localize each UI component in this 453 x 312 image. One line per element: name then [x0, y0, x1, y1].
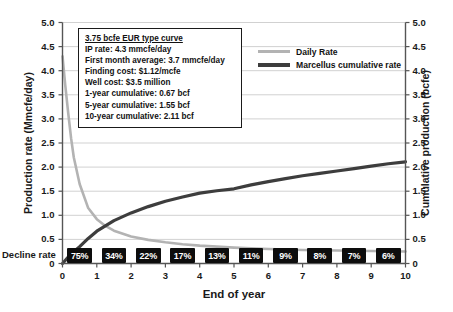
y-tick-right: 3.5: [413, 89, 439, 100]
info-box-line: 1-year cumulative: 0.67 bcf: [85, 88, 236, 99]
y-tick-right: 4.5: [413, 41, 439, 52]
x-tick: 2: [121, 270, 141, 281]
y-tick-left: 3.0: [29, 113, 55, 124]
decline-rate-box: 7%: [342, 248, 367, 263]
y-tick-left: 1.0: [29, 209, 55, 220]
info-box-line: Finding cost: $1.12/mcfe: [85, 66, 236, 77]
y-tick-right: 1.0: [413, 209, 439, 220]
y-tick-left: 3.5: [29, 89, 55, 100]
decline-rate-box: 9%: [273, 248, 298, 263]
y-tick-left: 0.5: [29, 233, 55, 244]
y-tick-left: 4.0: [29, 65, 55, 76]
decline-rate-box: 22%: [136, 248, 161, 263]
decline-rate-box: 11%: [239, 248, 264, 263]
legend-item: Marcellus cumulative rate: [258, 58, 408, 71]
legend-label: Daily Rate: [296, 47, 338, 57]
x-tick: 9: [361, 270, 381, 281]
x-tick: 4: [190, 270, 210, 281]
x-tick: 7: [293, 270, 313, 281]
legend-swatch-line: [258, 63, 290, 67]
x-tick: 0: [53, 270, 73, 281]
y-tick-right: 1.5: [413, 185, 439, 196]
chart-legend: Daily RateMarcellus cumulative rate: [258, 45, 408, 71]
legend-item: Daily Rate: [258, 45, 408, 58]
x-tick: 6: [258, 270, 278, 281]
y-tick-right: 3.0: [413, 113, 439, 124]
decline-rate-box: 13%: [205, 248, 230, 263]
info-box-title: 3.75 bcfe EUR type curve: [85, 33, 236, 44]
x-tick: 5: [224, 270, 244, 281]
decline-rate-box: 6%: [376, 248, 401, 263]
x-tick: 3: [155, 270, 175, 281]
decline-rate-box: 75%: [67, 248, 92, 263]
info-box-line: 10-year cumulative: 2.11 bcf: [85, 111, 236, 122]
info-box-line: 5-year cumulative: 1.55 bcf: [85, 100, 236, 111]
decline-rate-box: 17%: [170, 248, 195, 263]
y-tick-left: 4.5: [29, 41, 55, 52]
chart-container: Production rate (Mmcfe/day) Cumulative p…: [0, 0, 453, 312]
decline-rate-box: 8%: [307, 248, 332, 263]
type-curve-info-box: 3.75 bcfe EUR type curveIP rate: 4.3 mmc…: [78, 28, 242, 128]
info-box-line: First month average: 3.7 mmcfe/day: [85, 55, 236, 66]
y-tick-right: 2.0: [413, 161, 439, 172]
y-tick-right: 5.0: [413, 17, 439, 28]
y-tick-left: 2.5: [29, 137, 55, 148]
info-box-line: Well cost: $3.5 million: [85, 77, 236, 88]
decline-rate-box: 34%: [102, 248, 127, 263]
y-tick-right: 0.5: [413, 233, 439, 244]
y-tick-right: 4.0: [413, 65, 439, 76]
y-tick-right: 0: [413, 258, 439, 269]
x-tick: 10: [396, 270, 416, 281]
x-tick: 1: [87, 270, 107, 281]
y-tick-left: 2.0: [29, 161, 55, 172]
x-tick: 8: [327, 270, 347, 281]
y-tick-left: 1.5: [29, 185, 55, 196]
y-tick-right: 2.5: [413, 137, 439, 148]
y-tick-left: 5.0: [29, 17, 55, 28]
legend-swatch-line: [258, 50, 290, 53]
x-axis-title: End of year: [62, 288, 406, 300]
decline-rate-label: Decline rate: [2, 249, 56, 260]
legend-label: Marcellus cumulative rate: [296, 60, 401, 70]
info-box-line: IP rate: 4.3 mmcfe/day: [85, 44, 236, 55]
